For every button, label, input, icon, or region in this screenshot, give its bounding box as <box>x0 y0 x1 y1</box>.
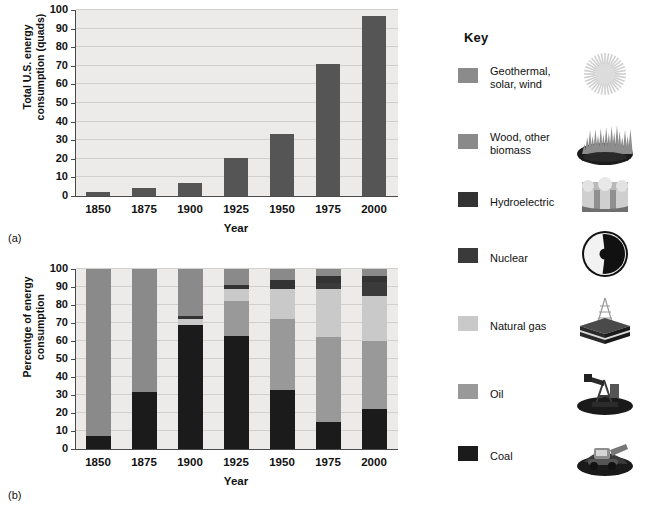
y-tick-label: 10 <box>34 170 68 182</box>
panel-b-x-axis-title: Year <box>75 475 397 487</box>
sun-icon <box>574 48 636 100</box>
stacked-bar <box>316 269 341 449</box>
stack-segment <box>224 285 249 289</box>
gas-rig-icon <box>574 296 636 348</box>
stack-segment <box>224 269 249 285</box>
grid-line <box>76 83 398 84</box>
y-tick-mark <box>71 413 75 414</box>
legend-item-label: Oil <box>490 388 582 401</box>
y-tick-mark <box>71 10 75 11</box>
y-tick-mark <box>71 122 75 123</box>
bar <box>224 158 248 196</box>
y-tick-mark <box>71 323 75 324</box>
x-tick-label: 1975 <box>304 456 352 468</box>
stack-segment <box>224 289 249 302</box>
chart-panel-b: Percentge of energy consumption 01020304… <box>0 257 432 509</box>
y-tick-mark <box>71 377 75 378</box>
x-tick-label: 1925 <box>212 203 260 215</box>
y-tick-label: 100 <box>34 3 68 15</box>
legend-item: Geothermal, solar, wind <box>432 62 647 118</box>
legend-key: Key Geothermal, solar, windWood, other b… <box>432 0 647 509</box>
panel-b-caption: (b) <box>8 489 21 501</box>
y-tick-mark <box>71 196 75 197</box>
y-tick-label: 10 <box>34 424 68 436</box>
y-tick-mark <box>71 341 75 342</box>
legend-title: Key <box>464 30 488 45</box>
stack-segment <box>178 325 203 449</box>
x-tick-label: 1975 <box>304 203 352 215</box>
stack-segment <box>132 269 157 392</box>
dam-icon <box>574 172 636 224</box>
stacked-bar <box>362 269 387 449</box>
y-tick-label: 40 <box>34 370 68 382</box>
legend-swatch <box>458 248 478 263</box>
x-tick-label: 1950 <box>258 456 306 468</box>
stack-segment <box>270 319 295 389</box>
stack-segment <box>86 436 111 449</box>
stacked-bar <box>270 269 295 449</box>
stacked-bar <box>224 269 249 449</box>
grid-line <box>76 65 398 66</box>
y-tick-label: 80 <box>34 298 68 310</box>
legend-item-label: Natural gas <box>490 320 582 333</box>
stacked-bar <box>178 269 203 449</box>
stack-segment <box>178 316 203 320</box>
stack-segment <box>362 276 387 281</box>
y-tick-label: 50 <box>34 96 68 108</box>
y-tick-label: 20 <box>34 406 68 418</box>
y-tick-mark <box>71 449 75 450</box>
oil-pump-icon <box>574 364 636 416</box>
stack-segment <box>362 271 387 276</box>
y-tick-label: 80 <box>34 40 68 52</box>
bar <box>270 134 294 196</box>
legend-swatch <box>458 134 478 149</box>
stack-segment <box>316 273 341 277</box>
legend-swatch <box>458 68 478 83</box>
y-tick-label: 90 <box>34 280 68 292</box>
biomass-icon <box>574 114 636 166</box>
legend-swatch <box>458 446 478 461</box>
chart-panel-a: Total U.S. energy consumption (quads) 01… <box>0 0 432 252</box>
stacked-bar <box>86 269 111 449</box>
coal-excavator-icon <box>574 426 636 478</box>
y-tick-mark <box>71 287 75 288</box>
legend-swatch <box>458 192 478 207</box>
bar <box>316 64 340 196</box>
grid-line <box>76 28 398 29</box>
y-tick-mark <box>71 103 75 104</box>
stack-segment <box>86 269 111 436</box>
stack-segment <box>316 289 341 338</box>
y-tick-mark <box>71 305 75 306</box>
stack-segment <box>132 392 157 449</box>
y-tick-label: 30 <box>34 133 68 145</box>
x-tick-label: 1900 <box>166 456 214 468</box>
x-tick-label: 1950 <box>258 203 306 215</box>
stack-segment <box>178 269 203 316</box>
legend-item-label: Hydroelectric <box>490 196 582 209</box>
y-tick-label: 0 <box>34 189 68 201</box>
x-tick-label: 1925 <box>212 456 260 468</box>
bar <box>132 188 156 196</box>
y-tick-mark <box>71 431 75 432</box>
y-tick-mark <box>71 66 75 67</box>
x-tick-label: 1875 <box>120 203 168 215</box>
stack-segment <box>270 280 295 289</box>
x-tick-label: 1850 <box>74 456 122 468</box>
y-tick-mark <box>71 269 75 270</box>
stack-segment <box>178 319 203 324</box>
panel-a-caption: (a) <box>8 232 21 244</box>
grid-line <box>76 9 398 10</box>
y-tick-mark <box>71 29 75 30</box>
x-tick-label: 2000 <box>350 203 398 215</box>
grid-line <box>76 46 398 47</box>
y-tick-label: 60 <box>34 334 68 346</box>
stack-segment <box>316 269 341 273</box>
y-tick-mark <box>71 140 75 141</box>
y-tick-label: 100 <box>34 262 68 274</box>
legend-item: Coal <box>432 440 647 496</box>
stack-segment <box>224 336 249 449</box>
legend-swatch <box>458 316 478 331</box>
stacked-bar <box>132 269 157 449</box>
stack-segment <box>362 409 387 449</box>
y-tick-label: 40 <box>34 115 68 127</box>
